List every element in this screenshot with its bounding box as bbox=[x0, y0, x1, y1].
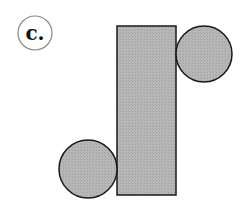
circle-bottom-left-shape bbox=[59, 140, 117, 198]
label-text: c. bbox=[25, 21, 44, 45]
rectangle-shape bbox=[117, 26, 176, 195]
diagram-canvas: c. bbox=[0, 0, 245, 205]
circle-top-right-shape bbox=[176, 26, 232, 82]
label-badge: c. bbox=[18, 16, 52, 50]
